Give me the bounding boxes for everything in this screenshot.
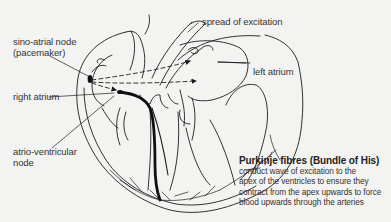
- label-av-node: atrio-ventricular node: [13, 146, 77, 168]
- left-atrium-chamber: [180, 41, 248, 101]
- label-sa-node-line2: (pacemaker): [13, 47, 76, 58]
- av-node: [117, 90, 123, 94]
- label-spread-of-excitation: spread of excitation: [202, 16, 282, 27]
- purkinje-desc-line: apex of the ventricles to ensure they: [239, 176, 381, 186]
- label-sa-node-line1: sino-atrial node: [13, 36, 76, 47]
- label-left-atrium: left atrium: [253, 66, 294, 77]
- label-av-node-line1: atrio-ventricular: [13, 146, 77, 157]
- purkinje-desc-line: conduct wave of excitation to the: [239, 166, 381, 176]
- label-sa-node: sino-atrial node (pacemaker): [13, 36, 76, 58]
- label-right-atrium: right atrium: [13, 91, 59, 102]
- heart-conduction-diagram: sino-atrial node (pacemaker) spread of e…: [0, 0, 391, 222]
- purkinje-desc-line: contract from the apex upwards to force: [239, 187, 381, 197]
- right-atrium-chamber: [92, 55, 112, 106]
- valves: [102, 90, 195, 145]
- excitation-arrows: [92, 61, 196, 90]
- label-av-node-line2: node: [13, 157, 77, 168]
- purkinje-desc-line: blood upwards through the arteries: [239, 197, 381, 207]
- label-purkinje: Purkinje fibres (Bundle of His) conduct …: [239, 155, 381, 208]
- purkinje-title: Purkinje fibres (Bundle of His): [239, 155, 381, 166]
